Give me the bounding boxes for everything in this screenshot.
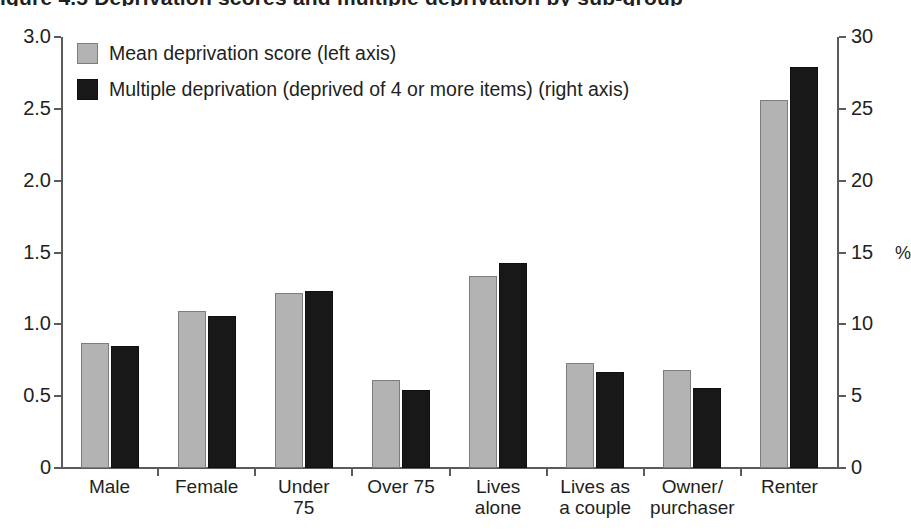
grey-square-icon <box>77 43 98 64</box>
category-label-line: Under <box>255 476 352 497</box>
category-label-line: Lives <box>450 476 547 497</box>
right-tick-mark <box>839 467 846 469</box>
x-tick-mark <box>351 468 353 476</box>
category-label-line: 75 <box>255 497 352 518</box>
left-tick-mark <box>54 252 61 254</box>
x-tick-mark <box>740 468 742 476</box>
bar-mean-deprivation <box>275 293 303 468</box>
x-tick-mark <box>643 468 645 476</box>
right-tick-label: 10 <box>851 313 897 333</box>
x-axis-category-label: Lives asa couple <box>547 476 644 519</box>
x-axis-category-label: Female <box>158 476 255 497</box>
bar-multiple-deprivation <box>208 316 236 468</box>
black-square-icon <box>77 79 98 100</box>
x-axis-category-label: Over 75 <box>352 476 449 497</box>
x-tick-mark <box>157 468 159 476</box>
legend-label-multiple: Multiple deprivation (deprived of 4 or m… <box>109 78 629 101</box>
legend-label-mean: Mean deprivation score (left axis) <box>109 42 396 65</box>
left-tick-mark <box>54 108 61 110</box>
x-axis-category-label: Under75 <box>255 476 352 519</box>
chart-legend: Mean deprivation score (left axis) Multi… <box>77 40 629 112</box>
left-tick-label: 0.5 <box>5 385 51 405</box>
x-axis-category-label: Livesalone <box>450 476 547 519</box>
bar-mean-deprivation <box>566 363 594 468</box>
left-tick-label: 1.0 <box>5 313 51 333</box>
bar-mean-deprivation <box>663 370 691 468</box>
left-tick-mark <box>54 467 61 469</box>
x-axis-category-label: Owner/purchaser <box>644 476 741 519</box>
right-tick-mark <box>839 108 846 110</box>
right-tick-mark <box>839 395 846 397</box>
bar-multiple-deprivation <box>693 388 721 468</box>
bar-mean-deprivation <box>469 276 497 469</box>
bar-multiple-deprivation <box>790 67 818 468</box>
category-label-line: Male <box>61 476 158 497</box>
category-label-line: Over 75 <box>352 476 449 497</box>
left-tick-label: 2.0 <box>5 170 51 190</box>
bar-multiple-deprivation <box>111 346 139 468</box>
legend-item-mean: Mean deprivation score (left axis) <box>77 40 629 66</box>
right-tick-mark <box>839 180 846 182</box>
category-label-line: purchaser <box>644 497 741 518</box>
left-tick-mark <box>54 395 61 397</box>
right-tick-label: 5 <box>851 385 897 405</box>
right-tick-label: 0 <box>851 457 897 477</box>
legend-item-multiple: Multiple deprivation (deprived of 4 or m… <box>77 76 629 102</box>
right-tick-mark <box>839 252 846 254</box>
category-label-line: Female <box>158 476 255 497</box>
x-tick-mark <box>254 468 256 476</box>
bar-mean-deprivation <box>372 380 400 468</box>
right-tick-label: 30 <box>851 26 897 46</box>
bar-multiple-deprivation <box>499 263 527 468</box>
category-label-line: Owner/ <box>644 476 741 497</box>
left-tick-mark <box>54 180 61 182</box>
left-tick-label: 1.5 <box>5 242 51 262</box>
right-tick-label: 25 <box>851 98 897 118</box>
category-label-line: alone <box>450 497 547 518</box>
category-label-line: Lives as <box>547 476 644 497</box>
left-tick-mark <box>54 36 61 38</box>
left-tick-label: 2.5 <box>5 98 51 118</box>
right-tick-label: 15 <box>851 242 897 262</box>
bar-mean-deprivation <box>81 343 109 468</box>
chart-title-remnant: igure 4.5 Deprivation scores and multipl… <box>0 0 911 6</box>
right-tick-mark <box>839 323 846 325</box>
left-tick-mark <box>54 323 61 325</box>
deprivation-bar-chart: igure 4.5 Deprivation scores and multipl… <box>0 0 911 530</box>
bar-multiple-deprivation <box>402 390 430 468</box>
bar-mean-deprivation <box>760 100 788 468</box>
x-axis-category-label: Male <box>61 476 158 497</box>
left-tick-label: 0 <box>5 457 51 477</box>
bar-multiple-deprivation <box>596 372 624 468</box>
category-label-line: a couple <box>547 497 644 518</box>
right-tick-label: 20 <box>851 170 897 190</box>
bar-multiple-deprivation <box>305 291 333 468</box>
x-tick-mark <box>546 468 548 476</box>
bar-mean-deprivation <box>178 311 206 468</box>
left-tick-label: 3.0 <box>5 26 51 46</box>
x-axis-category-label: Renter <box>741 476 838 497</box>
right-axis-unit-label: % <box>895 243 911 264</box>
x-tick-mark <box>449 468 451 476</box>
category-label-line: Renter <box>741 476 838 497</box>
right-tick-mark <box>839 36 846 38</box>
